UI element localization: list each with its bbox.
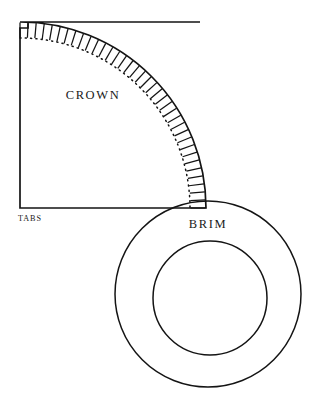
- tab-tick: [164, 108, 177, 116]
- tab-tick: [85, 37, 91, 51]
- tab-tick: [185, 160, 200, 164]
- tab-tick: [35, 23, 36, 38]
- crown-tab-ticks: [20, 22, 206, 208]
- tab-tick: [99, 43, 106, 56]
- tab-tick: [141, 77, 152, 88]
- crown-seam-dotted-line: [20, 38, 190, 208]
- tab-tick: [42, 24, 44, 39]
- pattern-drawing-canvas: CROWN TABS BRIM: [0, 0, 331, 417]
- tab-tick: [124, 61, 133, 73]
- tab-tick: [186, 168, 201, 171]
- tab-tick: [71, 31, 76, 45]
- tabs-label: TABS: [18, 214, 42, 223]
- tab-tick: [112, 51, 120, 64]
- tab-tick: [146, 83, 157, 93]
- tab-tick: [105, 47, 113, 60]
- tab-tick: [160, 102, 172, 111]
- tab-tick: [190, 192, 205, 193]
- tab-tick: [92, 40, 98, 54]
- tab-tick: [130, 66, 140, 78]
- tab-tick: [64, 29, 68, 44]
- tab-tick: [171, 122, 184, 129]
- brim-label: BRIM: [189, 217, 227, 231]
- tab-tick: [168, 115, 181, 123]
- tab-tick: [180, 145, 194, 150]
- crown-outline-path: [20, 22, 206, 208]
- tab-tick: [78, 34, 83, 48]
- crown-label: CROWN: [66, 88, 121, 102]
- crown-piece: CROWN: [20, 22, 206, 208]
- tab-tick: [183, 152, 197, 157]
- tab-tick: [189, 184, 204, 186]
- tab-tick: [135, 71, 145, 82]
- brim-piece: BRIM: [115, 201, 301, 387]
- tab-tick: [27, 23, 28, 38]
- tab-tick: [57, 27, 60, 42]
- tab-tick: [50, 25, 53, 40]
- tab-tick: [155, 95, 167, 104]
- tab-tick: [118, 56, 127, 68]
- brim-inner-circle: [153, 241, 267, 355]
- tab-tick: [178, 137, 192, 143]
- tab-tick: [151, 89, 163, 99]
- pattern-sheet: CROWN TABS BRIM: [0, 0, 331, 417]
- tab-tick: [188, 176, 203, 179]
- tab-tick: [175, 130, 189, 136]
